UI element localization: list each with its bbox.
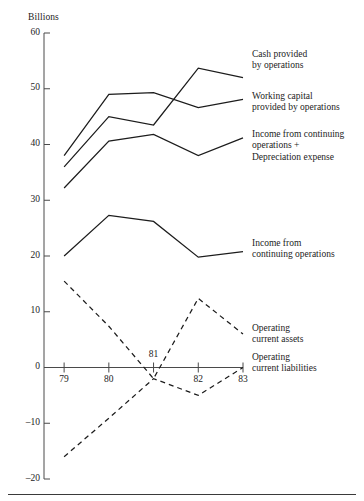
series-label-operating-current-assets: Operatingcurrent assets <box>252 323 303 346</box>
series-line-3 <box>64 215 243 257</box>
y-tick-label: 30 <box>10 194 40 204</box>
series-label-line: by operations <box>252 60 307 71</box>
series-label-line: Operating <box>252 352 317 363</box>
series-label-line: Operating <box>252 323 303 334</box>
axes-group <box>44 33 243 479</box>
series-label-line: Cash provided <box>252 49 307 60</box>
series-label-income-from-continuing-operations: Income fromcontinuing operations <box>252 238 335 261</box>
series-label-line: continuing operations <box>252 249 335 260</box>
y-tick-label: 20 <box>10 250 40 260</box>
series-label-line: Working capital <box>252 91 340 102</box>
y-tick-label: 50 <box>10 82 40 92</box>
y-tick-label: –10 <box>10 417 40 427</box>
series-group <box>64 68 243 457</box>
series-label-line: Income from continuing <box>252 129 344 140</box>
y-tick-label: –20 <box>10 473 40 483</box>
series-label-line: operations + <box>252 140 344 151</box>
y-tick-label: 40 <box>10 138 40 148</box>
series-label-line: Depreciation expense <box>252 152 344 163</box>
series-label-income-continuing-operations-plus-depreciation: Income from continuingoperations +Deprec… <box>252 129 344 163</box>
bottom-divider-rule <box>8 494 356 495</box>
series-label-line: Income from <box>252 238 335 249</box>
x-tick-label: 82 <box>187 374 209 384</box>
series-label-line: current liabilities <box>252 363 317 374</box>
series-label-line: current assets <box>252 334 303 345</box>
y-tick-label: 10 <box>10 305 40 315</box>
x-tick-label: 81 <box>143 349 165 359</box>
series-label-operating-current-liabilities: Operatingcurrent liabilities <box>252 352 317 375</box>
x-tick-label: 80 <box>98 374 120 384</box>
series-line-0 <box>64 68 243 167</box>
chart-figure: Billions 6050403020100–10–20 7980818283 … <box>0 0 364 501</box>
series-label-cash-provided-by-operations: Cash providedby operations <box>252 49 307 72</box>
series-label-working-capital-provided-by-operations: Working capitalprovided by operations <box>252 91 340 114</box>
y-tick-label: 60 <box>10 27 40 37</box>
series-line-2 <box>64 134 243 188</box>
y-tick-label: 0 <box>10 361 40 371</box>
x-tick-label: 79 <box>53 374 75 384</box>
y-axis-title: Billions <box>28 12 59 22</box>
series-line-5 <box>64 368 243 457</box>
series-label-line: provided by operations <box>252 102 340 113</box>
x-tick-label: 83 <box>232 374 254 384</box>
